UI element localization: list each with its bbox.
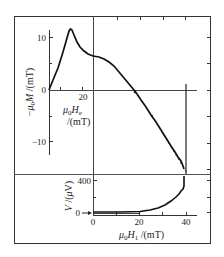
lower-tick-x40: 40 [182,217,192,227]
upper-tick-m10: −10 [32,137,47,147]
voltage-curve [93,176,184,212]
upper-tick-x20: 20 [79,92,89,102]
lower-x-axis-label: μ0H1 /(mT) [118,229,164,242]
lower-tick-x0: 0 [91,217,96,227]
upper-inner-x-unit: /(mT) [67,116,90,128]
upper-tick-10: 10 [37,33,47,43]
zero-arrow-head-icon [88,211,92,215]
magnetization-curve [49,29,184,169]
upper-tick-0: 0 [42,85,47,95]
lower-y-axis-label: V /(μV) [63,181,75,211]
lower-tick-x20: 20 [135,217,145,227]
curve-marker [134,91,137,94]
lower-tick-400: 400 [78,176,92,186]
chart-figure: 10 0 −10 20 −μ0M /(mT) μ0He /(mT) 400 0 [0,0,224,257]
outer-frame [15,17,211,244]
upper-y-axis-label: −μ0M /(mT) [24,68,37,116]
lower-tick-0: 0 [76,208,81,218]
